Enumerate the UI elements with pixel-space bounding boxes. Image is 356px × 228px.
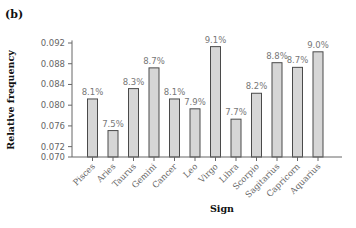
data-label: 7.9% [184, 97, 206, 107]
bar-cancer [170, 99, 180, 157]
x-axis: PiscesAriesTaurusGeminiCancerLeoVirgoLib… [71, 157, 342, 200]
y-axis-title: Relative frequency [5, 50, 16, 150]
y-tick-label: 0.076 [41, 121, 65, 131]
x-axis-title: Sign [210, 203, 234, 214]
y-tick-label: 0.080 [41, 100, 65, 110]
data-label: 7.7% [225, 107, 247, 117]
bar-sagitarius [272, 63, 282, 157]
y-tick-label: 0.070 [41, 152, 65, 162]
data-label: 8.1% [82, 87, 104, 97]
data-label: 7.5% [102, 119, 124, 129]
bar-aquarius [313, 52, 323, 157]
data-label: 8.7% [287, 55, 309, 65]
panel-label: (b) [5, 8, 23, 21]
bar-chart: (b) 0.0700.0720.0760.0800.0840.0880.092 … [0, 0, 356, 228]
y-tick-label: 0.072 [41, 142, 65, 152]
data-label: 9.1% [205, 35, 227, 45]
data-label: 8.8% [266, 51, 288, 61]
data-label: 8.7% [143, 56, 165, 66]
y-tick-label: 0.088 [41, 59, 65, 69]
bar-pisces [88, 99, 98, 157]
y-tick-label: 0.084 [41, 79, 65, 89]
bar-aries [108, 131, 118, 157]
data-label: 8.3% [123, 77, 145, 87]
bar-libra [231, 119, 241, 157]
bar-gemini [149, 68, 159, 157]
bars: 8.1%7.5%8.3%8.7%8.1%7.9%9.1%7.7%8.2%8.8%… [82, 35, 329, 157]
data-label: 8.2% [246, 81, 268, 91]
bar-capricorn [293, 67, 303, 157]
x-tick-label: Pisces [71, 161, 97, 187]
bar-virgo [211, 47, 221, 157]
x-tick-label: Virgo [196, 161, 220, 185]
y-axis: 0.0700.0720.0760.0800.0840.0880.092 [41, 38, 72, 162]
bar-scorpio [252, 93, 262, 157]
data-label: 9.0% [307, 40, 329, 50]
data-label: 8.1% [164, 87, 186, 97]
bar-taurus [129, 89, 139, 157]
y-tick-label: 0.092 [41, 38, 65, 48]
bar-leo [190, 109, 200, 157]
